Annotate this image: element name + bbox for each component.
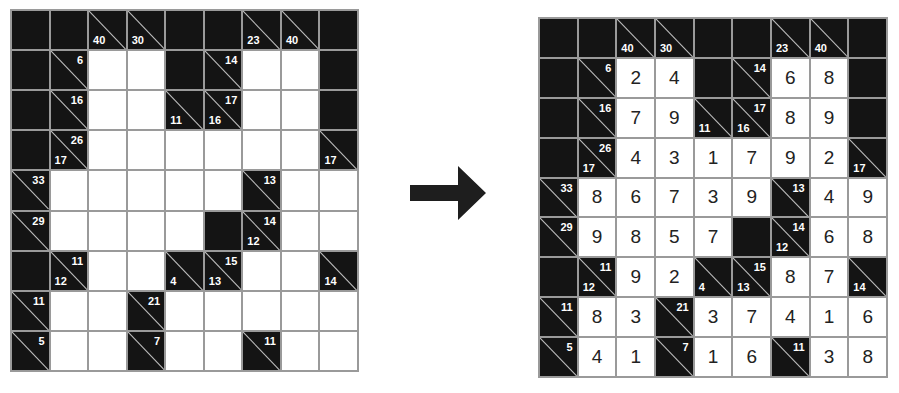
entry-cell[interactable] [282, 252, 319, 290]
entry-cell[interactable]: 4 [656, 59, 693, 97]
entry-cell[interactable]: 3 [695, 298, 732, 336]
entry-cell[interactable] [51, 332, 88, 370]
entry-cell[interactable]: 1 [617, 338, 654, 376]
entry-cell[interactable] [128, 91, 165, 129]
clue-cell: 11 [772, 338, 809, 376]
entry-cell[interactable] [243, 292, 280, 330]
entry-cell[interactable] [166, 332, 203, 370]
block-cell [12, 252, 49, 290]
clue-cell: 30 [128, 11, 165, 49]
entry-cell[interactable] [320, 171, 357, 209]
entry-cell[interactable]: 9 [733, 179, 770, 217]
entry-cell[interactable] [166, 171, 203, 209]
entry-cell[interactable]: 9 [656, 99, 693, 137]
entry-cell[interactable]: 7 [695, 218, 732, 256]
entry-cell[interactable]: 4 [617, 139, 654, 177]
entry-cell[interactable] [282, 131, 319, 169]
entry-cell[interactable] [166, 292, 203, 330]
entry-cell[interactable]: 3 [617, 298, 654, 336]
entry-cell[interactable]: 4 [811, 179, 848, 217]
entry-cell[interactable] [128, 131, 165, 169]
entry-cell[interactable] [243, 131, 280, 169]
entry-cell[interactable]: 9 [617, 258, 654, 296]
entry-cell[interactable]: 3 [695, 179, 732, 217]
entry-cell[interactable]: 7 [733, 139, 770, 177]
entry-cell[interactable]: 6 [849, 298, 886, 336]
entry-cell[interactable] [128, 212, 165, 250]
entry-cell[interactable]: 9 [849, 179, 886, 217]
entry-cell[interactable] [282, 212, 319, 250]
entry-cell[interactable]: 3 [656, 139, 693, 177]
entry-cell[interactable] [89, 332, 126, 370]
entry-cell[interactable]: 5 [656, 218, 693, 256]
entry-cell[interactable] [89, 51, 126, 89]
entry-cell[interactable]: 8 [617, 218, 654, 256]
block-cell [205, 11, 242, 49]
entry-cell[interactable] [51, 171, 88, 209]
entry-cell[interactable]: 7 [811, 258, 848, 296]
entry-cell[interactable]: 9 [579, 218, 616, 256]
entry-cell[interactable]: 9 [811, 99, 848, 137]
entry-cell[interactable]: 8 [579, 298, 616, 336]
entry-cell[interactable] [282, 91, 319, 129]
across-clue: 33 [32, 174, 44, 186]
entry-cell[interactable] [205, 332, 242, 370]
entry-cell[interactable] [282, 51, 319, 89]
solution-digit: 2 [811, 139, 848, 177]
entry-cell[interactable]: 6 [617, 179, 654, 217]
entry-cell[interactable]: 1 [695, 338, 732, 376]
entry-cell[interactable]: 3 [811, 338, 848, 376]
entry-cell[interactable] [320, 212, 357, 250]
entry-cell[interactable]: 7 [617, 99, 654, 137]
entry-cell[interactable] [243, 91, 280, 129]
entry-cell[interactable] [320, 292, 357, 330]
across-clue: 16 [599, 102, 611, 114]
entry-cell[interactable]: 4 [579, 338, 616, 376]
entry-cell[interactable] [205, 131, 242, 169]
down-clue: 40 [286, 34, 298, 46]
entry-cell[interactable]: 8 [772, 99, 809, 137]
entry-cell[interactable] [128, 51, 165, 89]
entry-cell[interactable]: 8 [849, 218, 886, 256]
entry-cell[interactable] [128, 171, 165, 209]
entry-cell[interactable]: 8 [772, 258, 809, 296]
entry-cell[interactable]: 1 [811, 298, 848, 336]
entry-cell[interactable] [282, 292, 319, 330]
across-clue: 21 [148, 295, 160, 307]
entry-cell[interactable] [89, 252, 126, 290]
entry-cell[interactable]: 9 [772, 139, 809, 177]
entry-cell[interactable]: 8 [849, 338, 886, 376]
entry-cell[interactable] [89, 91, 126, 129]
entry-cell[interactable] [51, 292, 88, 330]
solution-digit: 9 [579, 218, 616, 256]
entry-cell[interactable] [128, 252, 165, 290]
entry-cell[interactable]: 7 [733, 298, 770, 336]
solution-digit: 1 [617, 338, 654, 376]
entry-cell[interactable] [89, 171, 126, 209]
entry-cell[interactable] [89, 292, 126, 330]
entry-cell[interactable]: 6 [811, 218, 848, 256]
entry-cell[interactable] [89, 131, 126, 169]
entry-cell[interactable]: 2 [656, 258, 693, 296]
entry-cell[interactable] [205, 292, 242, 330]
entry-cell[interactable]: 8 [811, 59, 848, 97]
entry-cell[interactable]: 2 [811, 139, 848, 177]
entry-cell[interactable]: 8 [579, 179, 616, 217]
entry-cell[interactable] [243, 252, 280, 290]
entry-cell[interactable] [243, 51, 280, 89]
block-cell [540, 99, 577, 137]
entry-cell[interactable]: 2 [617, 59, 654, 97]
entry-cell[interactable] [51, 212, 88, 250]
entry-cell[interactable] [282, 171, 319, 209]
entry-cell[interactable] [320, 332, 357, 370]
entry-cell[interactable] [166, 212, 203, 250]
entry-cell[interactable] [166, 131, 203, 169]
entry-cell[interactable]: 6 [733, 338, 770, 376]
entry-cell[interactable]: 7 [656, 179, 693, 217]
entry-cell[interactable] [89, 212, 126, 250]
entry-cell[interactable]: 1 [695, 139, 732, 177]
entry-cell[interactable] [205, 171, 242, 209]
entry-cell[interactable]: 6 [772, 59, 809, 97]
entry-cell[interactable]: 4 [772, 298, 809, 336]
entry-cell[interactable] [282, 332, 319, 370]
